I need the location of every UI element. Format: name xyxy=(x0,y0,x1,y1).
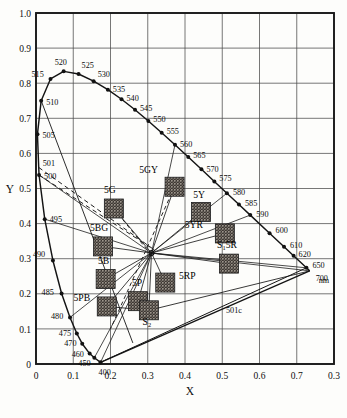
locus-point xyxy=(99,360,103,364)
wavelength-label: 535 xyxy=(113,85,125,94)
wavelength-label: 501 xyxy=(43,159,55,168)
wavelength-label: 525 xyxy=(82,61,94,70)
wavelength-label: 510 xyxy=(46,98,58,107)
wavelength-label: 620 xyxy=(299,250,311,259)
locus-point xyxy=(282,245,286,249)
wavelength-label: 555 xyxy=(167,127,179,136)
locus-point xyxy=(92,79,96,83)
y-tick-label: 0.3 xyxy=(19,254,31,264)
x-tick-label: 0.5 xyxy=(216,371,228,381)
chromaticity-plot: 00.10.20.30.40.50.60.70.300.10.20.30.40.… xyxy=(0,0,347,418)
y-tick-label: 0.8 xyxy=(19,79,31,89)
y-axis-label: Y xyxy=(6,183,15,195)
wavelength-label: 580 xyxy=(233,188,245,197)
patch-label: 5B xyxy=(98,255,109,266)
x-tick-label: 0.6 xyxy=(254,371,266,381)
wavelength-label: 550 xyxy=(153,115,165,124)
y-tick-label: 0.4 xyxy=(19,219,31,229)
x-tick-label: 0.1 xyxy=(67,371,79,381)
x-tick-label: 0.3 xyxy=(328,371,340,381)
wavelength-label: 530 xyxy=(98,70,110,79)
locus-point xyxy=(186,155,190,159)
locus-point xyxy=(35,132,39,136)
locus-point xyxy=(106,88,110,92)
x-axis-label: X xyxy=(186,385,195,397)
locus-point xyxy=(68,315,72,319)
patch-swatch xyxy=(219,254,238,273)
wavelength-label: 585 xyxy=(245,199,257,208)
wavelength-label: 490 xyxy=(33,250,45,259)
wavelength-label: 570 xyxy=(206,165,218,174)
wavelength-label: 475 xyxy=(59,329,71,338)
patch-swatch xyxy=(104,199,123,218)
locus-point xyxy=(199,167,203,171)
locus-point xyxy=(92,356,96,360)
wavelength-label: 560 xyxy=(180,140,192,149)
locus-point xyxy=(146,119,150,123)
x-tick-label: 0.7 xyxy=(291,371,303,381)
wavelength-label: 540 xyxy=(127,94,139,103)
locus-point xyxy=(75,332,79,336)
locus-point xyxy=(292,254,296,258)
patch-swatch xyxy=(94,237,113,256)
nm-unit-label: nm xyxy=(319,276,330,285)
wavelength-label: 450 xyxy=(78,359,90,368)
locus-point xyxy=(237,203,241,207)
patch-label: 5GY xyxy=(139,164,158,175)
chromaticity-figure: 00.10.20.30.40.50.60.70.300.10.20.30.40.… xyxy=(0,0,347,418)
patch-label: 5PB xyxy=(74,292,91,303)
annotation-501c: 501c xyxy=(226,306,242,315)
locus-point xyxy=(51,258,55,262)
patch-label: 5Y xyxy=(193,189,205,200)
wavelength-label: 600 xyxy=(276,226,288,235)
patch-label: S15R xyxy=(217,239,237,251)
locus-point xyxy=(80,342,84,346)
patch-label: 5YR xyxy=(185,219,204,230)
wavelength-label: 545 xyxy=(140,104,152,113)
wavelength-label: 590 xyxy=(256,210,268,219)
y-tick-label: 0.9 xyxy=(19,44,31,54)
locus-point xyxy=(48,77,52,81)
locus-point xyxy=(248,213,252,217)
x-tick-label: 0 xyxy=(34,371,39,381)
locus-point xyxy=(212,179,216,183)
x-tick-label: 0.3 xyxy=(142,371,154,381)
patch-label: 5BG xyxy=(90,222,108,233)
patch-label: 5G xyxy=(104,184,116,195)
locus-point xyxy=(77,72,81,76)
wavelength-label: 480 xyxy=(51,312,63,321)
locus-point xyxy=(60,292,64,296)
patch-swatch xyxy=(165,177,184,196)
wavelength-label: 485 xyxy=(42,288,54,297)
wavelength-label: 470 xyxy=(64,339,76,348)
wavelength-label: 610 xyxy=(290,241,302,250)
patch-swatch xyxy=(96,270,115,289)
wavelength-label: 500 xyxy=(44,172,56,181)
locus-point xyxy=(268,231,272,235)
wavelength-label: 495 xyxy=(50,215,62,224)
figure-background xyxy=(0,0,347,418)
wavelength-label: 400 xyxy=(99,368,111,377)
locus-point xyxy=(133,108,137,112)
y-tick-label: 0.1 xyxy=(19,325,31,335)
locus-point xyxy=(43,217,47,221)
locus-point xyxy=(173,143,177,147)
patch-label: 5RP xyxy=(179,270,196,281)
wavelength-label: 575 xyxy=(219,174,231,183)
wavelength-label: 515 xyxy=(31,70,43,79)
patch-swatch xyxy=(156,273,175,292)
y-tick-label: 0.6 xyxy=(19,149,31,159)
locus-point xyxy=(304,266,308,270)
patch-label: 5P xyxy=(132,277,142,288)
y-tick-label: 0 xyxy=(26,360,31,370)
wavelength-label: 650 xyxy=(312,261,324,270)
locus-point xyxy=(88,352,92,356)
wavelength-label: 520 xyxy=(55,58,67,67)
locus-point xyxy=(120,97,124,101)
y-tick-label: 1.0 xyxy=(19,9,31,19)
locus-point xyxy=(62,69,66,73)
wavelength-label: 505 xyxy=(42,131,54,140)
y-tick-label: 0.5 xyxy=(19,184,31,194)
x-tick-label: 0.4 xyxy=(179,371,191,381)
locus-point xyxy=(37,173,41,177)
